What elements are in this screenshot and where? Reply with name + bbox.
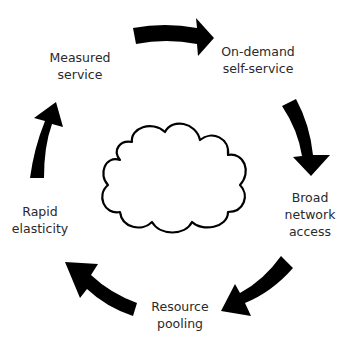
node-label-line: access — [285, 223, 336, 240]
node-label-line: Resource — [151, 298, 208, 315]
node-label-line: self-service — [221, 60, 295, 77]
node-label-line: Measured — [49, 49, 110, 66]
node-label-line: service — [49, 66, 110, 83]
arrow-measured-to-ondemand — [133, 18, 214, 56]
node-label-line: network — [285, 206, 336, 223]
node-on-demand-self-service: On-demand self-service — [221, 43, 295, 77]
node-label-line: Rapid — [12, 203, 68, 220]
arrow-elasticity-to-measured — [30, 102, 63, 178]
node-label-line: Broad — [285, 189, 336, 206]
cloud-icon — [102, 124, 246, 233]
node-resource-pooling: Resource pooling — [151, 298, 208, 332]
node-broad-network-access: Broad network access — [285, 189, 336, 240]
node-rapid-elasticity: Rapid elasticity — [12, 203, 68, 237]
arrow-ondemand-to-broad — [282, 99, 330, 176]
node-label-line: elasticity — [12, 220, 68, 237]
node-measured-service: Measured service — [49, 49, 110, 83]
node-label-line: pooling — [151, 315, 208, 332]
node-label-line: On-demand — [221, 43, 295, 60]
arrow-broad-to-pooling — [221, 256, 293, 316]
arrow-pooling-to-elasticity — [65, 262, 137, 316]
